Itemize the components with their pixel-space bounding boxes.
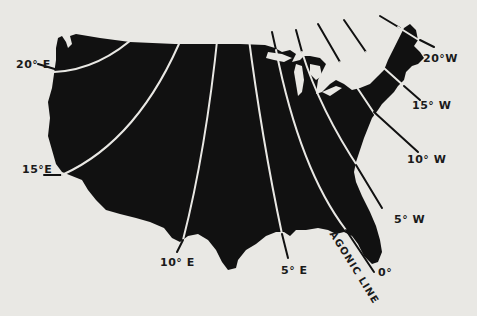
- label-15w: 15° W: [412, 99, 451, 112]
- isogonic-line-15w-top: [344, 20, 366, 52]
- label-20e: 20° E: [16, 58, 51, 71]
- label-10e: 10° E: [160, 256, 195, 269]
- label-0: 0°: [378, 266, 392, 279]
- isogonic-line-20w: [420, 40, 434, 47]
- us-landmass: [48, 24, 424, 270]
- map-canvas: [0, 0, 477, 316]
- isogonic-line-20w-top: [380, 16, 400, 28]
- label-5w: 5° W: [394, 213, 425, 226]
- label-5e: 5° E: [281, 264, 308, 277]
- isogonic-line-15w: [404, 86, 420, 100]
- label-20w: 20°W: [423, 52, 458, 65]
- declination-map: 20° E 15°E 10° E 5° E 0° 5° W 10° W 15° …: [0, 0, 477, 316]
- isogonic-line-10w-top: [318, 24, 340, 62]
- isogonic-line-10w: [374, 112, 418, 152]
- isogonic-line-5w-top: [296, 30, 302, 52]
- isogonic-line-5e: [282, 234, 288, 258]
- label-15e: 15°E: [22, 163, 52, 176]
- label-10w: 10° W: [407, 153, 446, 166]
